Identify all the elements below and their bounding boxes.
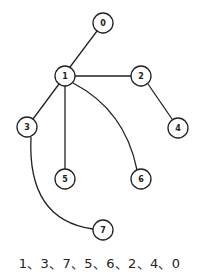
svg-text:5: 5 <box>62 175 68 184</box>
nodes: 0 1 2 3 4 5 6 7 <box>17 13 188 240</box>
edge-2-4 <box>148 84 172 119</box>
edge-1-6 <box>73 83 137 170</box>
svg-text:2: 2 <box>138 72 144 81</box>
graph-node-5: 5 <box>55 169 75 189</box>
traversal-order-caption: 1、3、7、5、6、2、4、0 <box>0 253 199 272</box>
edge-1-3 <box>33 84 59 119</box>
svg-text:7: 7 <box>100 226 106 235</box>
graph-node-6: 6 <box>131 169 151 189</box>
edge-1-0 <box>70 31 97 67</box>
edges <box>31 31 172 229</box>
graph-node-4: 4 <box>168 118 188 138</box>
svg-text:1: 1 <box>62 72 68 81</box>
graph-node-2: 2 <box>131 66 151 86</box>
graph-node-3: 3 <box>17 117 37 137</box>
svg-text:3: 3 <box>24 123 30 132</box>
graph-node-0: 0 <box>93 13 113 33</box>
svg-text:0: 0 <box>100 19 106 28</box>
svg-text:4: 4 <box>175 124 181 133</box>
graph-node-7: 7 <box>93 220 113 240</box>
graph-diagram: 0 1 2 3 4 5 6 7 <box>0 0 199 272</box>
svg-text:6: 6 <box>138 175 144 184</box>
graph-node-1: 1 <box>55 66 75 86</box>
